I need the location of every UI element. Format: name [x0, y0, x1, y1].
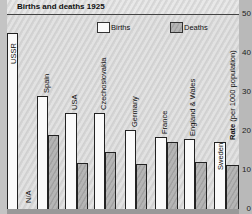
label-england-wales: England & Wales: [188, 79, 197, 136]
label-czechoslovakia: Czechoslovakia: [99, 57, 108, 110]
bar-england-wales-births: [184, 139, 195, 210]
bar-france-births: [155, 137, 167, 210]
bar-germany-deaths: [136, 164, 147, 210]
x-axis-baseline: [7, 209, 239, 214]
chart-title: Births and deaths 1925: [17, 2, 105, 11]
bar-sweden-deaths: [226, 165, 239, 210]
bar-usa-deaths: [77, 163, 88, 210]
bar-czechoslovakia-deaths: [105, 152, 116, 210]
legend-swatch-deaths: [170, 22, 183, 33]
label-germany: Germany: [130, 96, 139, 127]
bar-czechoslovakia-births: [94, 113, 105, 210]
y-tick-20: 20: [242, 126, 251, 135]
bar-france-deaths: [167, 142, 178, 210]
label-na: N/A: [24, 190, 33, 203]
y-axis-label-bold: Rate: [228, 124, 237, 140]
y-tick-30: 30: [242, 87, 251, 96]
y-axis-label: Rate (per 1000 population): [228, 50, 237, 140]
label-france: France: [160, 111, 169, 134]
label-spain: Spain: [42, 74, 51, 93]
bar-germany-births: [125, 130, 136, 210]
y-tick-0: 0: [247, 204, 251, 213]
label-usa: USA: [70, 95, 79, 110]
legend-label-deaths: Deaths: [184, 23, 208, 32]
y-tick-50: 50: [242, 9, 251, 18]
legend-label-births: Births: [111, 23, 130, 32]
y-tick-40: 40: [242, 48, 251, 57]
legend-swatch-births: [97, 22, 110, 33]
bar-usa-births: [65, 113, 77, 210]
y-tick-10: 10: [242, 165, 251, 174]
title-bar: Births and deaths 1925: [7, 0, 239, 15]
label-ussr: USSR: [9, 43, 18, 64]
y-axis-label-rest: (per 1000 population): [228, 50, 237, 123]
bar-spain-births: [37, 96, 48, 210]
label-sweden: Sweden: [216, 143, 225, 170]
y-axis: 50 40 30 20 10 0: [239, 0, 252, 214]
bar-england-wales-deaths: [195, 162, 207, 210]
bar-spain-deaths: [48, 135, 59, 210]
